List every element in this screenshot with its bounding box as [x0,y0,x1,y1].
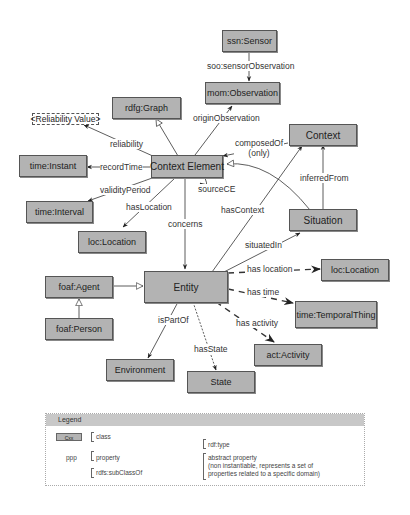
legend-class-label: class [96,433,111,441]
node-reliability-value: <Reliability Value> [32,113,99,125]
node-rdfg-graph: rdfg:Graph [112,97,181,119]
edge-label-record-time: recordTime [100,162,143,172]
legend-title: Legend [46,414,364,426]
node-loc-location-2: loc:Location [321,259,389,281]
node-foaf-agent: foaf:Agent [45,276,113,298]
node-entity: Entity [144,271,228,303]
composed-of-note: (only) [248,148,269,158]
legend-bracket [91,468,94,478]
edge-label-concerns: concerns [168,219,203,229]
edge-label-composed-of: composedOf (only) [234,138,284,158]
edge-label-has-activity: has activity [236,318,278,328]
legend-class-sample: Cxx [56,433,82,441]
node-mom-observation: mom:Observation [205,82,280,104]
node-act-activity: act:Activity [254,344,322,366]
node-time-temporal-thing: time:TemporalThing [295,301,377,328]
composed-of-text: composedOf [235,138,283,148]
legend-property-label: property [96,454,120,462]
edge-label-has-time: has time [247,287,279,297]
node-context: Context [289,124,357,146]
legend-bracket [91,451,94,461]
node-loc-location-1: loc:Location [78,231,146,253]
legend-bracket [203,453,206,480]
legend-bracket [203,439,206,449]
node-state: State [187,371,255,393]
node-situation: Situation [289,209,357,231]
edge-label-has-context: hasContext [221,205,264,215]
legend-abstract-label-2: (non instantiable, represents a set of [208,462,313,470]
node-environment: Environment [106,359,174,381]
edge-label-has-location-abstract: has location [247,264,292,274]
legend-abstract-label-3: properties related to a specific domain) [208,470,320,478]
edge-label-has-state: hasState [194,344,228,354]
edge-label-soo-sensor-observation: soo:sensorObservation [207,61,294,71]
edge-label-validity-period: validityPeriod [100,185,151,195]
legend-bracket [91,432,94,442]
edge-label-source-ce: sourceCE [198,184,235,194]
edge-label-inferred-from: inferredFrom [300,173,349,183]
legend-property-sample: ppp [66,454,77,462]
context-ontology-diagram: ssn:Sensor soo:sensorObservation mom:Obs… [0,0,410,515]
node-time-interval: time:Interval [26,201,93,223]
node-time-instant: time:Instant [19,155,87,177]
node-context-element: Context Element [151,155,223,178]
legend: Legend Cxx class ppp property rdfs:subCl… [45,413,365,486]
node-foaf-person: foaf:Person [45,318,113,340]
legend-abstract-label-1: abstract property [208,454,257,462]
edge-label-has-location: hasLocation [126,202,172,212]
edge-label-is-part-of: isPartOf [158,315,189,325]
edge-label-origin-observation: originObservation [193,113,260,123]
legend-rdf-type-label: rdf:type [208,441,230,449]
legend-subclass-label: rdfs:subClassOf [96,469,142,477]
edge-label-situated-in: situatedIn [245,240,282,250]
node-ssn-sensor: ssn:Sensor [222,30,277,52]
edge-label-reliability: reliability [110,139,143,149]
